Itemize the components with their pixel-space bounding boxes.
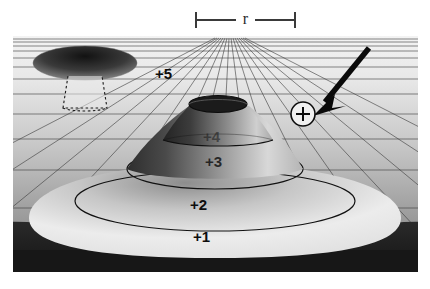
contour-label-2: +2 [190,196,207,213]
test-particle-marker[interactable] [291,102,315,126]
embedding-diagram: +5 +4 +3 +2 +1 [13,36,418,272]
figure-root: r [0,0,430,289]
contour-label-1: +1 [193,228,210,245]
scale-bar-rule-right [255,19,295,21]
funnel-throat-opening [189,96,247,113]
scale-bar-r: r [195,10,296,30]
scale-bar-right-tick [294,12,296,28]
contour-label-3: +3 [205,153,222,170]
inset-dotted-cylinder [63,76,107,108]
contour-label-4: +4 [203,128,220,145]
contour-label-5: +5 [155,65,172,82]
